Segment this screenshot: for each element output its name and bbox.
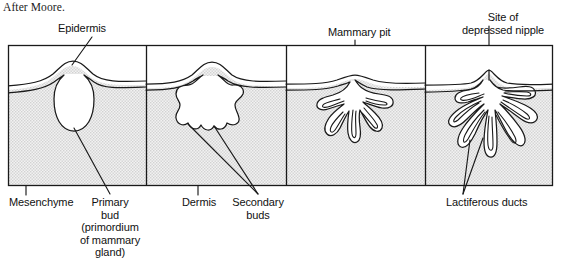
label-mesenchyme: Mesenchyme — [9, 196, 73, 209]
label-depressed-nipple: Site of depressed nipple — [451, 11, 555, 36]
label-dermis: Dermis — [182, 196, 216, 209]
label-primary-bud: Primary bud (primordium of mammary gland… — [68, 196, 152, 259]
label-secondary-buds: Secondary buds — [227, 196, 289, 221]
figure-page: After Moore. — [0, 0, 564, 264]
label-epidermis: Epidermis — [58, 22, 106, 35]
label-lactiferous-ducts: Lactiferous ducts — [446, 196, 527, 209]
label-mammary-pit: Mammary pit — [328, 26, 390, 39]
